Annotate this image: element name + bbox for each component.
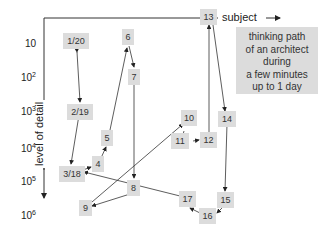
node-14: 14 bbox=[218, 111, 236, 127]
y-tick-3: 103 bbox=[6, 105, 36, 117]
node-10: 10 bbox=[181, 110, 197, 126]
note-line: of an architect bbox=[236, 44, 318, 57]
note-line: up to 1 day bbox=[236, 81, 318, 94]
node-3-18: 3/18 bbox=[59, 166, 85, 182]
node-13: 13 bbox=[200, 9, 217, 25]
node-8: 8 bbox=[127, 180, 140, 196]
node-5: 5 bbox=[101, 130, 113, 146]
node-1-20: 1/20 bbox=[63, 33, 89, 49]
node-4: 4 bbox=[92, 156, 104, 172]
y-tick-1: 10 bbox=[6, 37, 36, 49]
y-tick-5: 105 bbox=[6, 175, 36, 187]
note-line: thinking path bbox=[236, 31, 318, 44]
note-line: a few minutes bbox=[236, 69, 318, 82]
note-line: during bbox=[236, 56, 318, 69]
node-6: 6 bbox=[122, 29, 134, 45]
description-note: thinking path of an architect during a f… bbox=[236, 27, 318, 94]
node-12: 12 bbox=[200, 132, 217, 148]
node-15: 15 bbox=[217, 192, 234, 208]
x-axis-label: subject bbox=[220, 11, 259, 23]
node-2-19: 2/19 bbox=[67, 104, 93, 120]
y-tick-2: 102 bbox=[6, 71, 36, 83]
node-17: 17 bbox=[179, 191, 196, 207]
y-tick-4: 104 bbox=[6, 142, 36, 154]
y-tick-6: 106 bbox=[6, 209, 36, 221]
node-16: 16 bbox=[199, 208, 216, 224]
node-7: 7 bbox=[128, 69, 140, 85]
node-9: 9 bbox=[79, 200, 92, 216]
node-11: 11 bbox=[171, 133, 189, 149]
